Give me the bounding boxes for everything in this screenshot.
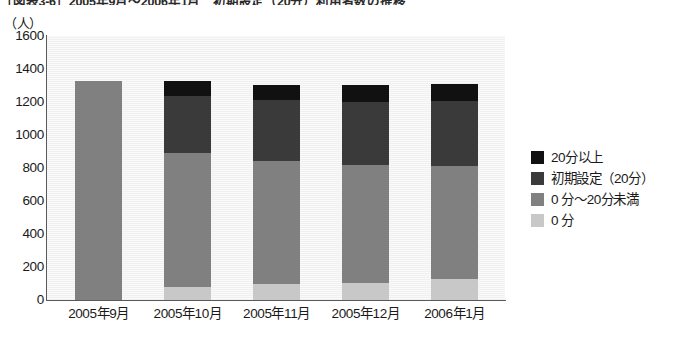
y-tick-label: 400 [2,227,44,241]
bar-segment [431,101,478,165]
bar-segment [342,165,389,283]
y-axis-line [46,35,47,301]
bar-segment [75,81,122,300]
y-tick-label: 1000 [2,128,44,142]
legend-item: 20分以上 [531,147,687,168]
y-axis-tick-labels: 16001400120010008006004002000 [0,0,44,338]
legend-label: 20分以上 [551,151,603,165]
legend-label: 0 分～20分未満 [551,193,639,207]
bar-segment [342,85,389,102]
bar-segment [253,100,300,162]
x-tick-label: 2005年12月 [320,305,412,323]
bar-segment [164,153,211,287]
bar-segment [431,84,478,101]
legend-label: 初期設定（20分） [551,172,653,186]
bar-segment [342,102,389,165]
x-tick-label: 2006年1月 [409,305,501,323]
bar-segment [431,279,478,300]
bar-2005年9月 [75,81,122,300]
y-tick-label: 800 [2,161,44,175]
x-tick-label: 2005年9月 [53,305,145,323]
bar-segment [164,81,211,97]
legend-label: 0 分 [551,214,574,228]
y-tick-label: 1600 [2,29,44,43]
y-tick-label: 600 [2,194,44,208]
legend-swatch-icon [531,151,544,164]
y-tick-label: 1400 [2,62,44,76]
legend-item: 0 分 [531,210,687,231]
bar-segment [253,85,300,100]
legend-item: 0 分～20分未満 [531,189,687,210]
bar-segment [431,166,478,280]
y-tick-label: 200 [2,260,44,274]
stacked-bar-chart: 16001400120010008006004002000 2005年9月200… [0,0,687,338]
bar-2006年1月 [431,84,478,300]
bar-2005年11月 [253,85,300,300]
legend-swatch-icon [531,193,544,206]
bar-2005年10月 [164,81,211,300]
x-tick-label: 2005年10月 [142,305,234,323]
bar-segment [164,287,211,300]
legend-item: 初期設定（20分） [531,168,687,189]
bar-2005年12月 [342,85,389,300]
x-axis-tick-labels: 2005年9月2005年10月2005年11月2005年12月2006年1月 [0,305,687,329]
chart-legend: 20分以上初期設定（20分）0 分～20分未満0 分 [531,147,687,231]
bar-segment [253,284,300,301]
bar-segment [342,283,389,300]
bar-segment [164,96,211,153]
y-tick-label: 1200 [2,95,44,109]
bar-segment [253,161,300,283]
legend-swatch-icon [531,214,544,227]
x-tick-label: 2005年11月 [231,305,323,323]
legend-swatch-icon [531,172,544,185]
x-axis-line [46,300,506,301]
